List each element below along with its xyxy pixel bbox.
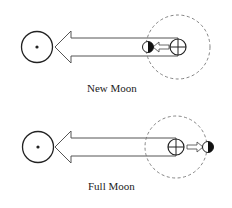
moon-phases-diagram	[0, 0, 232, 208]
sun-center-dot	[35, 45, 38, 48]
new-moon-panel	[22, 15, 211, 79]
earth-icon	[170, 39, 186, 55]
moon-icon	[143, 42, 154, 53]
full-moon-caption: Full Moon	[88, 180, 232, 192]
moon-icon	[203, 142, 214, 153]
sunlight-arrow	[55, 131, 176, 163]
new-moon-caption: New Moon	[87, 82, 232, 94]
sun-center-dot	[36, 145, 39, 148]
earth-icon	[168, 139, 184, 155]
earth-to-moon-arrow	[187, 142, 203, 152]
full-moon-panel	[23, 116, 214, 178]
